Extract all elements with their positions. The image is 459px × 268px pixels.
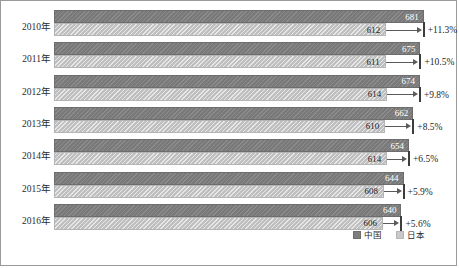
gap-label-2014年: +6.5% [413, 154, 438, 164]
gap-label-2010年: +11.3% [428, 25, 458, 35]
bar-value-japan: 608 [365, 186, 379, 196]
gap-arrow-shaft [387, 94, 415, 95]
category-label-2014年: 2014年 [1, 148, 51, 162]
gap-tick-2012年 [419, 87, 421, 102]
gap-arrow-head-icon [402, 156, 407, 162]
bar-group: 2014年654614+6.5% [1, 139, 456, 165]
gap-tick-2014年 [408, 151, 410, 166]
category-label-2015年: 2015年 [1, 181, 51, 195]
bar-group: 2011年675611+10.5% [1, 42, 456, 68]
bar-fill-china: 681 [54, 10, 424, 23]
gap-arrow-shaft [387, 159, 404, 160]
category-label-2012年: 2012年 [1, 84, 51, 98]
bar-japan-2011年: 611 [54, 55, 456, 68]
bar-china-2012年: 674 [54, 75, 456, 88]
category-label-2011年: 2011年 [1, 51, 51, 65]
gap-arrow-shaft [386, 30, 418, 31]
gap-arrow-2012年 [387, 88, 420, 101]
category-label-2013年: 2013年 [1, 116, 51, 130]
gap-arrow-2016年 [383, 217, 401, 230]
bar-pair: 640606+5.6% [54, 204, 456, 230]
bar-group: 2012年674614+9.8% [1, 75, 456, 101]
gap-label-2011年: +10.5% [424, 57, 454, 67]
bar-group: 2015年644608+5.9% [1, 172, 456, 198]
bar-value-china: 644 [385, 173, 399, 183]
gap-label-2013年: +8.5% [417, 122, 442, 132]
gap-label-2012年: +9.8% [424, 90, 449, 100]
gap-arrow-shaft [383, 223, 396, 224]
gap-tick-2011年 [419, 54, 421, 69]
bar-fill-japan: 606 [54, 217, 383, 230]
bar-china-2014年: 654 [54, 139, 456, 152]
bar-fill-china: 662 [54, 107, 413, 120]
bar-japan-2015年: 608 [54, 185, 456, 198]
bar-pair: 681612+11.3% [54, 10, 456, 36]
bar-fill-japan: 612 [54, 23, 386, 36]
bar-pair: 662610+8.5% [54, 107, 456, 133]
bar-fill-china: 644 [54, 172, 404, 185]
gap-arrow-shaft [384, 191, 399, 192]
gap-arrow-head-icon [413, 59, 418, 65]
legend-label-china: 中国 [364, 231, 382, 240]
bar-value-china: 640 [383, 205, 397, 215]
bar-pair: 654614+6.5% [54, 139, 456, 165]
gap-tick-2010年 [423, 22, 425, 37]
bar-value-japan: 610 [366, 121, 380, 131]
bar-china-2010年: 681 [54, 10, 456, 23]
plot-area: 2010年681612+11.3%2011年675611+10.5%2012年6… [1, 1, 456, 265]
gap-arrow-2013年 [385, 120, 413, 133]
gap-arrow-2014年 [387, 152, 409, 165]
bar-china-2016年: 640 [54, 204, 456, 217]
gap-label-2016年: +5.6% [405, 219, 430, 229]
chart-container: 2010年681612+11.3%2011年675611+10.5%2012年6… [0, 0, 457, 266]
legend-swatch-china-icon [353, 231, 361, 239]
gap-arrow-2011年 [386, 55, 421, 68]
bar-value-japan: 612 [367, 25, 381, 35]
gap-arrow-head-icon [406, 123, 411, 129]
bar-value-china: 654 [391, 141, 405, 151]
gap-tick-2015年 [403, 184, 405, 199]
category-label-2010年: 2010年 [1, 19, 51, 33]
bar-pair: 674614+9.8% [54, 75, 456, 101]
gap-tick-2016年 [400, 216, 402, 231]
bar-group: 2016年640606+5.6% [1, 204, 456, 230]
category-label-2016年: 2016年 [1, 213, 51, 227]
bar-fill-china: 674 [54, 75, 420, 88]
legend-label-japan: 日本 [407, 231, 425, 240]
legend-swatch-japan-icon [396, 231, 404, 239]
bar-fill-china: 654 [54, 139, 409, 152]
bar-value-china: 662 [395, 108, 409, 118]
bar-japan-2013年: 610 [54, 120, 456, 133]
bar-china-2013年: 662 [54, 107, 456, 120]
bar-china-2015年: 644 [54, 172, 456, 185]
bar-fill-japan: 611 [54, 55, 386, 68]
bar-pair: 644608+5.9% [54, 172, 456, 198]
gap-tick-2013年 [412, 119, 414, 134]
legend-item-china: 中国 [353, 231, 382, 240]
bar-value-japan: 611 [367, 57, 380, 67]
bar-fill-china: 640 [54, 204, 401, 217]
gap-arrow-2015年 [384, 185, 404, 198]
bar-group: 2013年662610+8.5% [1, 107, 456, 133]
bar-group: 2010年681612+11.3% [1, 10, 456, 36]
gap-arrow-head-icon [417, 27, 422, 33]
bar-value-japan: 614 [368, 89, 382, 99]
bar-fill-japan: 610 [54, 120, 385, 133]
bar-japan-2014年: 614 [54, 152, 456, 165]
bar-japan-2012年: 614 [54, 88, 456, 101]
bar-fill-japan: 608 [54, 185, 384, 198]
bar-value-china: 675 [402, 44, 416, 54]
gap-label-2015年: +5.9% [408, 187, 433, 197]
bar-fill-japan: 614 [54, 152, 387, 165]
bar-value-japan: 606 [363, 218, 377, 228]
bar-value-japan: 614 [368, 154, 382, 164]
chart-legend: 中国 日本 [353, 231, 439, 240]
bar-china-2011年: 675 [54, 42, 456, 55]
gap-arrow-head-icon [413, 91, 418, 97]
bar-value-china: 674 [401, 76, 415, 86]
gap-arrow-head-icon [394, 220, 399, 226]
bar-value-china: 681 [405, 12, 419, 22]
gap-arrow-shaft [385, 126, 408, 127]
bar-japan-2016年: 606 [54, 217, 456, 230]
gap-arrow-head-icon [397, 188, 402, 194]
